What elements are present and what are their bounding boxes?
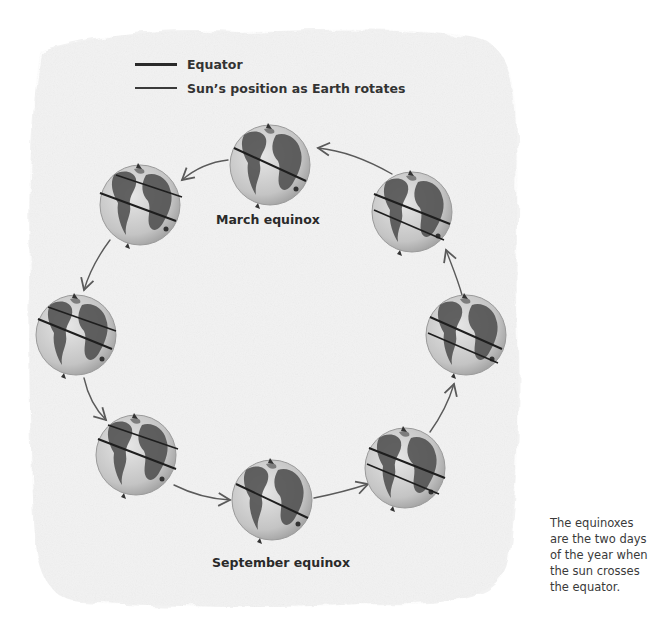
march-equinox-label: March equinox: [216, 212, 320, 227]
legend-label: Equator: [187, 57, 243, 72]
september-equinox-label: September equinox: [212, 555, 350, 570]
legend-item-equator: Equator: [135, 52, 405, 76]
legend-label: Sun’s position as Earth rotates: [187, 81, 405, 96]
legend: Equator Sun’s position as Earth rotates: [135, 52, 405, 100]
equinox-note: The equinoxes are the two days of the ye…: [550, 515, 650, 595]
equator-line-swatch: [135, 63, 177, 66]
legend-item-sun-position: Sun’s position as Earth rotates: [135, 76, 405, 100]
sun-position-line-swatch: [135, 87, 177, 89]
